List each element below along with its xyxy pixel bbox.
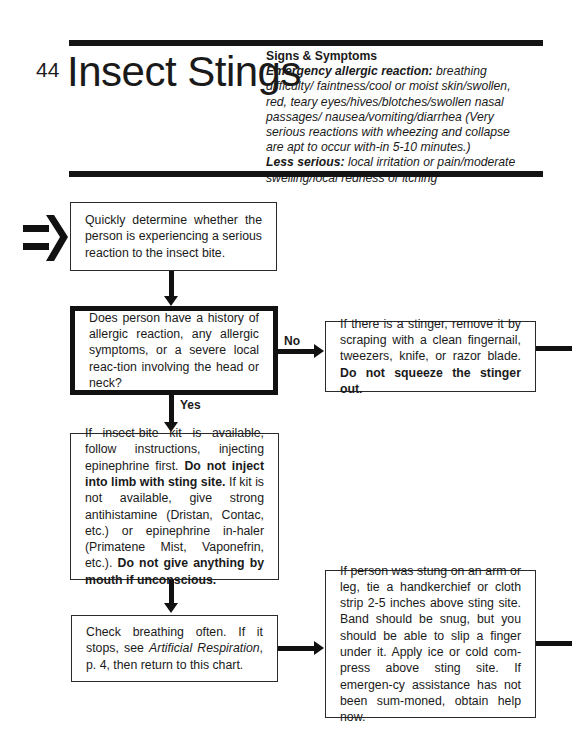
yes-label: Yes (180, 398, 201, 412)
connector-limb-exit (536, 641, 572, 646)
breathing-box: Check breathing often. If it stops, see … (71, 615, 278, 682)
stinger-text: If there is a stinger, remove it by scra… (340, 317, 521, 364)
emergency-label: Emergency allergic reaction: (266, 64, 433, 78)
artificial-respiration-ref: Artificial Respiration (149, 641, 259, 655)
symptoms-heading: Signs & Symptoms (266, 49, 528, 64)
start-box: Quickly determine whether the person is … (70, 202, 277, 271)
header-top-rule (69, 40, 543, 46)
limb-box: If person was stung on an arm or leg, ti… (325, 570, 536, 718)
signs-and-symptoms: Signs & Symptoms Emergency allergic reac… (266, 49, 528, 186)
decision-box: Does person have a history of allergic r… (70, 306, 278, 395)
arrow-down-icon (164, 296, 178, 306)
start-box-text: Quickly determine whether the person is … (85, 212, 262, 261)
entry-arrow-icon (20, 212, 70, 264)
emergency-reaction: Emergency allergic reaction: breathing d… (266, 64, 528, 155)
page-number: 44 (36, 58, 59, 82)
connector-yes (169, 395, 174, 424)
arrow-down-icon (164, 603, 178, 613)
connector-start-to-decision (169, 271, 174, 298)
kit-box-text: If insect-bite kit is available, follow … (85, 425, 264, 588)
header-bottom-rule (69, 171, 543, 177)
connector-breathing-to-limb (278, 646, 316, 651)
no-label: No (284, 334, 300, 348)
limb-box-text: If person was stung on an arm or leg, ti… (340, 563, 521, 726)
connector-no (278, 349, 316, 354)
kit-box: If insect-bite kit is available, follow … (70, 433, 279, 580)
stinger-warning: Do not squeeze the stinger out. (340, 366, 521, 396)
connector-stinger-exit (536, 346, 572, 351)
arrow-right-icon (314, 344, 324, 358)
stinger-box-text: If there is a stinger, remove it by scra… (340, 316, 521, 397)
breathing-box-text: Check breathing often. If it stops, see … (86, 624, 263, 673)
stinger-box: If there is a stinger, remove it by scra… (325, 321, 536, 392)
decision-box-text: Does person have a history of allergic r… (89, 310, 259, 391)
arrow-right-icon (314, 641, 324, 655)
less-serious-label: Less serious: (266, 155, 345, 169)
connector-kit-to-breathing (169, 580, 174, 605)
